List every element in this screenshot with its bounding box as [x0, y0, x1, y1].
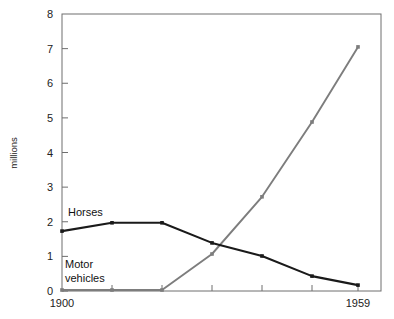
series-line-motor-vehicles	[62, 47, 358, 290]
series-annotation-motor-line2: vehicles	[65, 272, 105, 284]
plot-frame	[62, 14, 381, 291]
data-point-marker	[356, 45, 360, 49]
y-axis-tick-label: 7	[47, 43, 53, 55]
data-point-marker	[310, 120, 314, 124]
y-axis-ticks	[62, 49, 68, 291]
data-point-marker	[260, 254, 264, 258]
x-axis-tick-label-1959: 1959	[346, 297, 370, 309]
chart-container: 012345678 1900 1959 millions Horses Moto…	[0, 0, 394, 319]
y-axis-tick-label: 8	[47, 8, 53, 20]
data-point-marker	[60, 288, 64, 292]
data-point-marker	[60, 229, 64, 233]
y-axis-tick-label: 1	[47, 250, 53, 262]
data-point-marker	[260, 195, 264, 199]
y-axis-tick-label: 5	[47, 112, 53, 124]
x-axis-tick-label-1900: 1900	[50, 297, 74, 309]
series-annotation-horses: Horses	[68, 206, 103, 218]
series-annotation-motor-line1: Motor	[65, 258, 93, 270]
data-point-marker	[210, 252, 214, 256]
data-point-marker	[356, 283, 360, 287]
data-point-marker	[160, 221, 164, 225]
y-axis-tick-label: 3	[47, 181, 53, 193]
y-axis-tick-label: 6	[47, 77, 53, 89]
data-point-marker	[160, 288, 164, 292]
y-axis-tick-label: 4	[47, 147, 53, 159]
y-axis-title: millions	[8, 137, 19, 169]
y-axis-tick-labels: 012345678	[47, 8, 53, 297]
data-point-marker	[110, 288, 114, 292]
y-axis-tick-label: 0	[47, 285, 53, 297]
data-point-marker	[310, 274, 314, 278]
y-axis-tick-label: 2	[47, 216, 53, 228]
data-point-marker	[210, 241, 214, 245]
data-point-marker	[110, 221, 114, 225]
line-chart-svg: 012345678 1900 1959 millions Horses Moto…	[0, 0, 394, 319]
